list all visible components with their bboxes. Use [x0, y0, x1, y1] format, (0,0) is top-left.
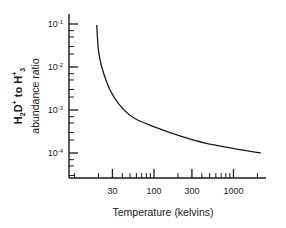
y-axis-label: H2D+ to H+3 abundance ratio — [0, 0, 50, 180]
y-axis-ticks: 10-110-210-310-4 — [48, 19, 78, 175]
x-tick-label: 1000 — [223, 186, 243, 196]
y-tick-label: 10-4 — [48, 148, 64, 158]
data-line — [97, 25, 261, 153]
x-axis-label: Temperature (kelvins) — [0, 206, 286, 218]
x-tick-label: 300 — [184, 186, 199, 196]
y-axis-label-line2: abundance ratio — [29, 58, 42, 133]
x-tick-label: 30 — [107, 186, 117, 196]
y-tick-label: 10-3 — [48, 105, 64, 115]
chart: 10-110-210-310-4 301003001000 H2D+ to H+… — [0, 0, 286, 228]
x-tick-label: 100 — [146, 186, 161, 196]
y-tick-label: 10-2 — [48, 62, 64, 72]
y-tick-label: 10-1 — [48, 19, 64, 29]
y-axis-label-line1: H2D+ to H+3 — [8, 58, 29, 133]
axes — [69, 14, 266, 178]
x-axis-ticks: 301003001000 — [75, 169, 258, 196]
